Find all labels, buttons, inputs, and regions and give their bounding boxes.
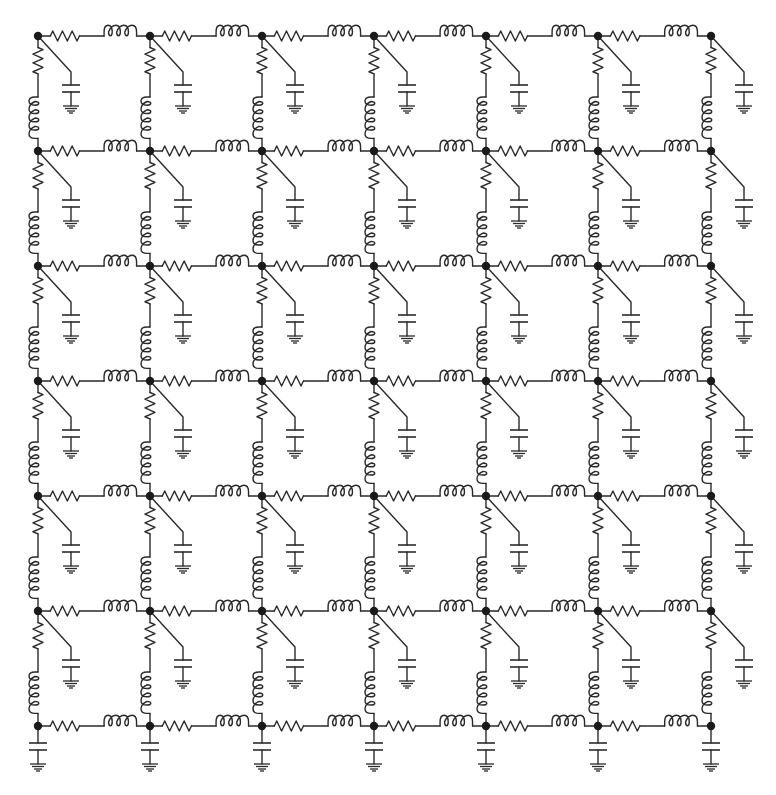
junction-dot-icon <box>482 607 490 615</box>
junction-dot-icon <box>370 722 378 730</box>
junction-dot-icon <box>370 32 378 40</box>
inductor-icon <box>477 212 487 253</box>
shunt-lead <box>38 151 71 200</box>
shunt-lead <box>486 36 519 85</box>
shunt-lead <box>598 36 631 85</box>
grid-cell <box>365 715 486 771</box>
resistor-icon <box>386 606 415 616</box>
junction-dot-icon <box>482 147 490 155</box>
resistor-icon <box>386 261 415 271</box>
shunt-lead <box>38 381 71 430</box>
junction-dot-icon <box>707 722 715 730</box>
resistor-icon <box>274 146 303 156</box>
grid-cell <box>29 715 150 771</box>
junction-dot-icon <box>482 377 490 385</box>
resistor-icon <box>610 146 639 156</box>
resistor-icon <box>50 376 79 386</box>
resistor-icon <box>706 508 716 534</box>
resistor-icon <box>257 48 267 74</box>
resistor-icon <box>593 278 603 304</box>
resistor-icon <box>481 278 491 304</box>
resistor-icon <box>257 278 267 304</box>
junction-dot-icon <box>707 147 715 155</box>
grid-cell <box>253 485 374 611</box>
inductor-icon <box>477 442 487 483</box>
junction-dot-icon <box>594 492 602 500</box>
resistor-icon <box>274 31 303 41</box>
grid-cell <box>29 25 150 151</box>
junction-dot-icon <box>707 32 715 40</box>
resistor-icon <box>386 376 415 386</box>
resistor-icon <box>593 508 603 534</box>
inductor-icon <box>328 600 360 611</box>
inductor-icon <box>589 672 599 713</box>
shunt-lead <box>38 496 71 545</box>
shunt-lead <box>262 381 295 430</box>
resistor-icon <box>386 721 415 731</box>
grid-cell <box>253 255 374 381</box>
shunt-lead <box>486 496 519 545</box>
shunt-lead <box>711 36 744 85</box>
resistor-icon <box>610 376 639 386</box>
resistor-icon <box>498 261 527 271</box>
resistor-icon <box>162 31 191 41</box>
junction-dot-icon <box>594 722 602 730</box>
shunt-lead <box>262 266 295 315</box>
resistor-icon <box>610 31 639 41</box>
grid-cell <box>141 255 262 381</box>
inductor-icon <box>702 442 712 483</box>
grid-cell <box>29 370 150 496</box>
resistor-icon <box>593 48 603 74</box>
shunt-lead <box>711 266 744 315</box>
resistor-icon <box>50 146 79 156</box>
junction-dot-icon <box>258 722 266 730</box>
junction-dot-icon <box>594 147 602 155</box>
shunt-lead <box>150 496 183 545</box>
inductor-icon <box>216 715 248 726</box>
wires-layer <box>29 25 753 771</box>
junction-dot-icon <box>34 32 42 40</box>
inductor-icon <box>589 557 599 598</box>
inductor-icon <box>29 672 39 713</box>
inductor-icon <box>665 25 698 36</box>
inductor-icon <box>365 557 375 598</box>
inductor-icon <box>104 140 136 151</box>
inductor-icon <box>141 557 151 598</box>
shunt-lead <box>711 151 744 200</box>
resistor-icon <box>33 48 43 74</box>
resistor-icon <box>706 163 716 189</box>
resistor-icon <box>162 721 191 731</box>
inductor-icon <box>29 97 39 138</box>
grid-cell <box>141 140 262 266</box>
inductor-icon <box>552 255 584 266</box>
resistor-icon <box>593 393 603 419</box>
resistor-icon <box>50 721 79 731</box>
inductor-icon <box>328 715 360 726</box>
inductor-icon <box>702 672 712 713</box>
grid-cell <box>702 496 753 611</box>
junction-dot-icon <box>34 377 42 385</box>
junction-dot-icon <box>258 377 266 385</box>
junction-dot-icon <box>34 262 42 270</box>
inductor-icon <box>104 600 136 611</box>
junction-dot-icon <box>707 262 715 270</box>
resistor-icon <box>162 376 191 386</box>
inductor-icon <box>216 255 248 266</box>
inductor-icon <box>665 255 698 266</box>
resistor-icon <box>162 606 191 616</box>
junction-dot-icon <box>707 377 715 385</box>
shunt-lead <box>598 266 631 315</box>
shunt-lead <box>598 496 631 545</box>
shunt-lead <box>38 611 71 660</box>
junction-dot-icon <box>258 147 266 155</box>
junction-dot-icon <box>34 147 42 155</box>
resistor-icon <box>706 623 716 649</box>
grid-cell <box>365 140 486 266</box>
resistor-icon <box>706 48 716 74</box>
inductor-icon <box>552 485 584 496</box>
grid-cell <box>589 485 711 611</box>
resistor-icon <box>498 606 527 616</box>
inductor-icon <box>328 370 360 381</box>
resistor-icon <box>274 721 303 731</box>
resistor-icon <box>498 491 527 501</box>
